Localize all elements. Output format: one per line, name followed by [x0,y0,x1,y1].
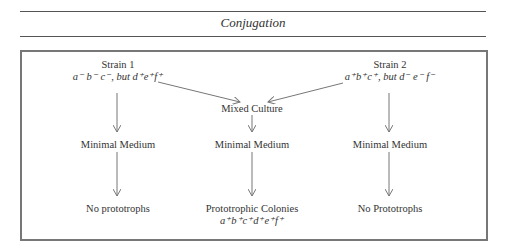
prototrophic-colonies-label: Prototrophic Colonies [206,203,298,215]
arrow-strain1-to-mixed [158,82,240,102]
prototroph-genotype: a⁺b⁺c⁺d⁺e⁺f⁺ [220,215,284,227]
strain1-name: Strain 1 [102,59,135,71]
right-minimal-medium: Minimal Medium [353,139,427,151]
arrow-strain2-to-mixed [268,83,343,102]
left-no-prototrophs: No prototrophs [86,203,150,215]
center-minimal-medium: Minimal Medium [215,139,289,151]
strain2-name: Strain 2 [374,59,407,71]
right-no-prototrophs: No Prototrophs [358,203,422,215]
mixed-culture-label: Mixed Culture [221,103,283,115]
left-minimal-medium: Minimal Medium [81,139,155,151]
strain1-genotype: a⁻ b⁻ c⁻, but d⁺e⁺f⁺ [73,71,164,83]
strain2-genotype: a⁺b⁺c⁺, but d⁻ e⁻ f⁻ [345,71,436,83]
